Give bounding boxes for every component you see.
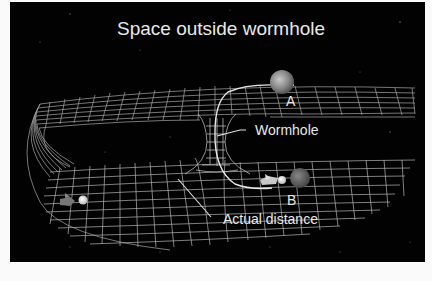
- label-point-a: A: [286, 94, 295, 108]
- spaceship-near-b: [260, 174, 286, 185]
- upper-sheet-grid: [36, 86, 415, 128]
- planet-b: [290, 168, 310, 188]
- planet-a: [270, 70, 294, 94]
- label-wormhole: Wormhole: [255, 123, 319, 137]
- diagram-panel: Space outside wormhole A B Wormhole Actu…: [10, 2, 425, 262]
- diagram-title: Space outside wormhole: [117, 19, 325, 38]
- label-actual-distance: Actual distance: [223, 212, 318, 226]
- wormhole-illustration: [10, 2, 425, 262]
- label-point-b: B: [287, 193, 296, 207]
- wormhole-pointer: [217, 130, 246, 136]
